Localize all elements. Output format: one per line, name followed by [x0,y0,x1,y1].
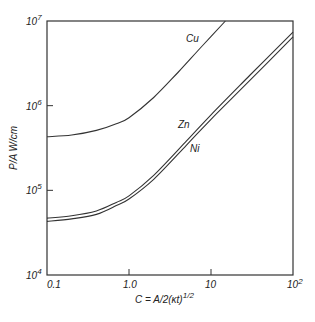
axis-ticks [47,106,211,275]
y-tick-label: 104 [26,267,42,281]
y-tick-label: 105 [26,182,42,196]
axis-tick-labels: 0.11.010102104105106107 [26,13,303,290]
label-cu: Cu [186,33,199,44]
curve-zn [47,32,293,218]
y-tick-label: 107 [26,13,42,27]
y-tick-label: 106 [26,98,42,112]
label-zn: Zn [177,119,190,130]
label-ni: Ni [190,143,200,154]
x-tick-label: 102 [287,277,303,290]
data-curves [47,21,293,221]
x-tick-label: 10 [205,279,217,290]
x-tick-label: 0.1 [47,279,61,290]
curve-ni [47,37,293,222]
log-log-chart: 0.11.010102104105106107 CuZnNi C = A/2(κ… [0,0,315,322]
x-axis-label: C = A/2(κt)1/2 [135,291,194,305]
y-axis-label: P/A W/cm [8,126,19,170]
x-tick-label: 1.0 [123,279,137,290]
plot-frame [47,21,293,275]
